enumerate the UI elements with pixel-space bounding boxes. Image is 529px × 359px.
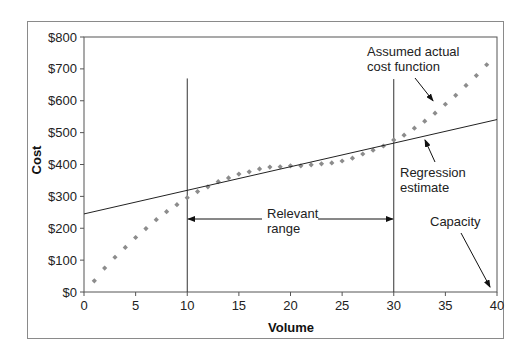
regression-arrow <box>425 140 435 162</box>
cost-data-point <box>267 164 272 169</box>
x-tick-label: 30 <box>387 298 401 313</box>
cost-data-point <box>329 160 334 165</box>
cost-data-point <box>360 151 365 156</box>
y-tick-label: $200 <box>48 221 77 236</box>
annotation-actual-cost: Assumed actual <box>367 44 460 59</box>
cost-data-point <box>412 126 417 131</box>
y-tick-label: $300 <box>48 189 77 204</box>
cost-data-point <box>236 171 241 176</box>
y-axis-label: Cost <box>29 145 44 175</box>
cost-data-point <box>319 161 324 166</box>
cost-data-point <box>102 265 107 270</box>
y-tick-label: $0 <box>63 285 77 300</box>
cost-data-point <box>443 102 448 107</box>
y-tick-label: $700 <box>48 61 77 76</box>
annotation-relevant-range: range <box>267 221 300 236</box>
x-tick-label: 5 <box>132 298 139 313</box>
y-tick-label: $500 <box>48 125 77 140</box>
x-tick-label: 35 <box>438 298 452 313</box>
y-tick-label: $100 <box>48 253 77 268</box>
cost-data-point <box>185 195 190 200</box>
cost-data-point <box>340 158 345 163</box>
cost-data-point <box>401 133 406 138</box>
x-tick-label: 40 <box>490 298 504 313</box>
annotation-relevant-range: Relevant <box>267 206 319 221</box>
cost-data-point <box>309 162 314 167</box>
annotation-actual-cost: cost function <box>367 59 440 74</box>
cost-data-point <box>453 93 458 98</box>
cost-data-point <box>195 189 200 194</box>
x-tick-label: 10 <box>180 298 194 313</box>
cost-data-point <box>143 226 148 231</box>
capacity-arrow <box>461 233 490 287</box>
y-tick-label: $600 <box>48 93 77 108</box>
x-tick-label: 0 <box>80 298 87 313</box>
annotation-regression: Regression <box>400 165 466 180</box>
cost-data-point <box>164 209 169 214</box>
cost-data-point <box>484 62 489 67</box>
cost-data-point <box>247 169 252 174</box>
x-tick-label: 15 <box>232 298 246 313</box>
cost-data-point <box>463 83 468 88</box>
x-tick-label: 25 <box>335 298 349 313</box>
cost-data-point <box>432 111 437 116</box>
cost-data-point <box>350 156 355 161</box>
cost-data-point <box>391 137 396 142</box>
cost-data-point <box>474 73 479 78</box>
y-tick-label: $800 <box>48 30 77 45</box>
actual-cost-arrow <box>415 78 433 101</box>
cost-data-point <box>422 119 427 124</box>
cost-data-point <box>133 235 138 240</box>
cost-data-point <box>154 217 159 222</box>
y-tick-label: $400 <box>48 157 77 172</box>
cost-volume-chart: $0$100$200$300$400$500$600$700$800051015… <box>0 0 529 359</box>
cost-data-point <box>123 245 128 250</box>
cost-data-point <box>112 255 117 260</box>
annotations: Assumed actualcost functionRegressionest… <box>188 44 490 287</box>
cost-data-point <box>257 166 262 171</box>
cost-data-point <box>174 202 179 207</box>
x-axis-label: Volume <box>268 320 314 335</box>
cost-data-point <box>92 278 97 283</box>
annotation-capacity: Capacity <box>430 214 481 229</box>
cost-data-point <box>226 175 231 180</box>
x-tick-label: 20 <box>283 298 297 313</box>
annotation-regression: estimate <box>400 180 449 195</box>
